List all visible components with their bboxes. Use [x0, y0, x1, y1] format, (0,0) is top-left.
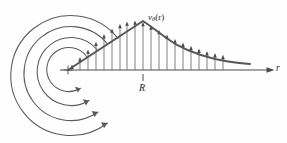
- streamline-arc-4: [11, 16, 118, 136]
- streamline-arrowhead-2: [83, 99, 89, 105]
- streamline-arc-3: [24, 27, 108, 121]
- radial-axis-label: r: [276, 64, 280, 74]
- velocity-arrowhead-group: [70, 20, 225, 69]
- core-radius-label: R: [139, 83, 145, 93]
- streamline-arc-group: [11, 16, 118, 136]
- figure-canvas: [0, 0, 287, 143]
- streamline-arrowhead-3: [92, 111, 98, 117]
- streamline-arrowhead-1: [75, 87, 81, 93]
- radial-axis-arrowhead: [267, 67, 275, 73]
- streamline-arrowhead-group: [75, 87, 108, 129]
- velocity-curve-label: vθ(r): [148, 13, 164, 23]
- velocity-argument: (r): [155, 12, 164, 22]
- vortex-velocity-profile-figure: vθ(r) R r: [0, 0, 287, 143]
